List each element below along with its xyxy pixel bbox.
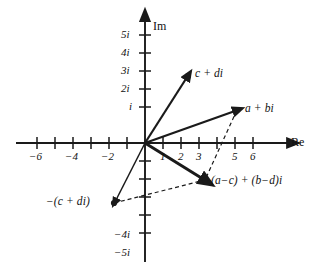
point-label-difference: (a−c) + (b−d)i [211, 175, 282, 187]
vector-difference [145, 143, 203, 179]
tick-label-minus-4: −4 [65, 151, 78, 162]
axis-label-im: Im [153, 20, 166, 32]
point-label-neg-c-plus-di: −(c + di) [46, 196, 90, 208]
complex-plane-figure: Re Im 5i 4i 3i 2i i −4i −5i −6 −4 −2 1 2… [0, 0, 320, 276]
tick-label-minus-4i: −4i [114, 229, 130, 240]
tick-label-1: 1 [160, 151, 166, 162]
tick-label-6: 6 [250, 151, 256, 162]
tick-label-minus-2: −2 [101, 151, 114, 162]
tick-label-5i: 5i [121, 29, 130, 40]
point-a-plus-bi [234, 107, 240, 113]
tick-label-3: 3 [196, 151, 202, 162]
vector-c-plus-di [145, 78, 187, 143]
tick-label-3i: 3i [121, 65, 130, 76]
tick-label-minus-5i: −5i [114, 247, 130, 258]
point-label-c-plus-di: c + di [195, 68, 223, 80]
vector-a-plus-bi [145, 111, 235, 143]
tick-label-5: 5 [232, 151, 238, 162]
tick-label-2: 2 [178, 151, 184, 162]
point-difference [202, 177, 208, 183]
vector-neg-c-plus-di [116, 143, 145, 200]
dashed-connectors [114, 110, 237, 203]
dashed-negc-to-difference [114, 180, 205, 203]
plot-canvas [0, 0, 320, 276]
tick-label-i: i [129, 101, 132, 112]
axis-label-re: Re [291, 136, 304, 148]
point-label-a-plus-bi: a + bi [245, 103, 274, 115]
tick-label-4i: 4i [121, 47, 130, 58]
tick-label-2i: 2i [121, 83, 130, 94]
point-c-plus-di [185, 73, 191, 79]
tick-label-minus-6: −6 [29, 151, 42, 162]
point-neg-c-plus-di [111, 200, 117, 206]
